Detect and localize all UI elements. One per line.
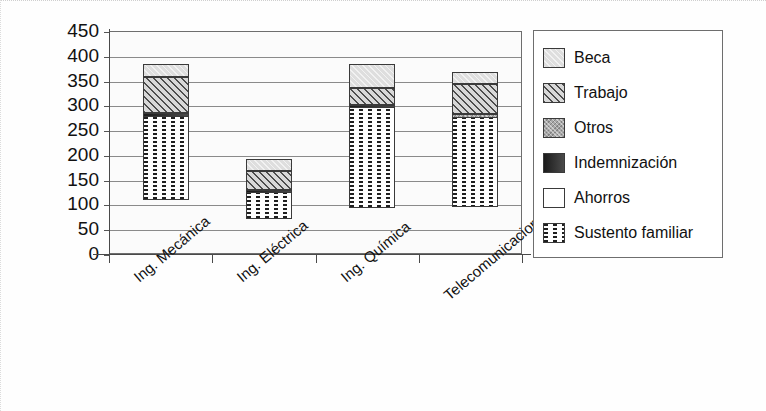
y-axis-tick-label: 150 [41, 170, 99, 189]
empty-swatch [543, 188, 565, 208]
y-axis-tick-label: 0 [41, 244, 99, 263]
light-gray-swatch [543, 48, 565, 68]
diagonal-hatch-swatch [543, 83, 565, 103]
bar-4 [452, 72, 498, 253]
y-axis-tick-label: 250 [41, 120, 99, 139]
bar-segment-beca [143, 64, 189, 77]
plot-area [109, 31, 522, 254]
y-axis-tick-label: 350 [41, 71, 99, 90]
bar-segment-otros [452, 114, 498, 118]
legend-item-beca[interactable]: Beca [543, 40, 722, 75]
y-axis-tick-label: 50 [41, 219, 99, 238]
bar-segment-beca [246, 159, 292, 171]
y-axis-tick-label: 200 [41, 145, 99, 164]
legend-item-list: BecaTrabajoOtrosIndemnizaciónAhorrosSust… [543, 40, 722, 250]
bar-segment-beca [452, 72, 498, 83]
bar-segment-beca [349, 64, 395, 88]
legend-item-trabajo[interactable]: Trabajo [543, 75, 722, 110]
legend-label: Ahorros [574, 189, 630, 207]
x-axis-tick [522, 254, 523, 263]
y-axis-line [109, 29, 110, 259]
y-axis-tick-label: 450 [41, 21, 99, 40]
legend-item-sustento-familiar[interactable]: Sustento familiar [543, 215, 722, 250]
bar-1 [143, 64, 189, 253]
x-axis-tick [109, 254, 110, 263]
bar-segment-trabajo [143, 77, 189, 113]
gray-swatch [543, 118, 565, 138]
legend-label: Otros [574, 119, 613, 137]
legend-label: Trabajo [574, 84, 628, 102]
bar-segment-indemnizaci-n [143, 113, 189, 117]
bar-segment-indemnizaci-n [349, 105, 395, 108]
chart-frame: 450400350300250200150100500 Ing. Mecánic… [0, 0, 766, 411]
x-axis-tick [419, 254, 420, 263]
legend-label: Beca [574, 49, 610, 67]
legend-item-otros[interactable]: Otros [543, 110, 722, 145]
bar-segment-indemnizaci-n [246, 190, 292, 192]
y-axis-tick-label: 300 [41, 95, 99, 114]
x-axis-tick [212, 254, 213, 263]
legend-label: Sustento familiar [574, 224, 693, 242]
gridline [110, 57, 521, 58]
vertical-dotted-swatch [543, 223, 565, 243]
bar-segment-trabajo [452, 84, 498, 115]
chart-legend: BecaTrabajoOtrosIndemnizaciónAhorrosSust… [533, 30, 723, 258]
legend-item-ahorros[interactable]: Ahorros [543, 180, 722, 215]
legend-item-indemnizaci-n[interactable]: Indemnización [543, 145, 722, 180]
bar-segment-trabajo [349, 88, 395, 105]
y-axis-tick-label: 400 [41, 46, 99, 65]
bar-segment-trabajo [246, 171, 292, 190]
solid-dark-swatch [543, 153, 565, 173]
bar-3 [349, 64, 395, 253]
x-axis-tick [316, 254, 317, 263]
y-axis-tick-label: 100 [41, 194, 99, 213]
legend-label: Indemnización [574, 154, 677, 172]
